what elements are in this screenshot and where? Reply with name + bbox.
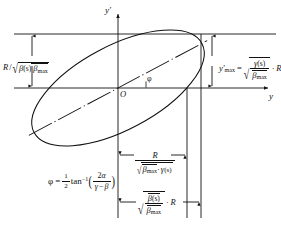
right-dimension-label: y'max = √ γ(s) βmax · R — [219, 57, 281, 79]
vertical-axis-label: y' — [105, 6, 111, 15]
radical-sign-icon: √ — [244, 68, 250, 82]
phi-paren-open: ( — [89, 176, 93, 187]
right-label-equals: = — [235, 64, 244, 73]
phi-paren-close: ) — [111, 176, 115, 187]
phi-tan: tan — [70, 177, 82, 186]
phi-formula-label: φ = 1 2 tan−1 ( 2α γ−β ) — [48, 171, 115, 191]
phi-tan-exponent: −1 — [82, 176, 88, 182]
bottom-inner-radical: √ βmax·γ(s) — [137, 162, 173, 174]
left-label-beta2-sub: max — [37, 68, 47, 74]
right-label-gamma-arg: (s) — [257, 59, 265, 68]
left-label-beta1-arg: (s) — [23, 64, 31, 73]
radical-sign-icon: √ — [137, 165, 141, 176]
bottom-outer-R: R — [170, 198, 175, 207]
bottom-outer-dimension-label: √ β(s) βmax · R — [138, 191, 176, 215]
phi-arg-alpha: α — [102, 171, 106, 180]
yprime-max-sub: max — [225, 67, 235, 73]
phi-equals: = — [53, 177, 62, 186]
right-label-R: R — [276, 64, 281, 73]
figure-canvas: y' y O φ R / √ β(s)βmax y'max = √ — [0, 0, 281, 226]
phi-arg-beta: β — [105, 182, 109, 191]
bottom-inner-R: R — [152, 150, 157, 160]
phi-half-denominator: 2 — [62, 181, 70, 190]
right-label-radical: √ γ(s) βmax — [244, 57, 271, 79]
horizontal-axis-label: y — [269, 92, 273, 101]
origin-label: O — [120, 90, 126, 99]
right-label-beta-sub: max — [256, 74, 266, 80]
phi-angle-label: φ — [147, 75, 152, 83]
bottom-outer-beta-den-sub: max — [151, 209, 161, 215]
bottom-inner-gamma-arg: (s) — [164, 166, 171, 174]
bottom-outer-beta-num-arg: (s) — [152, 194, 160, 203]
radical-sign-icon: √ — [13, 62, 19, 76]
radical-sign-icon: √ — [138, 203, 144, 217]
bottom-inner-dimension-label: R √ βmax·γ(s) — [135, 145, 175, 174]
left-dimension-label: R / √ β(s)βmax — [3, 57, 49, 73]
bottom-inner-beta-sub: max — [147, 168, 157, 174]
phi-half-numerator: 1 — [62, 173, 70, 181]
bottom-inner-beta: β — [142, 164, 146, 174]
left-label-radical: √ β(s)βmax — [13, 62, 50, 73]
bottom-outer-radical: √ β(s) βmax — [138, 191, 165, 214]
